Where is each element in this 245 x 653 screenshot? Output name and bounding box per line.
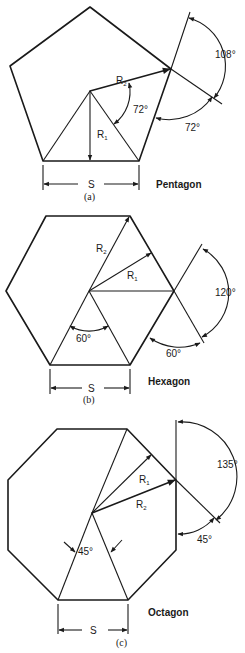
pentagon-interior-angle-label: 108° (215, 49, 236, 60)
octagon-center-angle-arrow-right (111, 540, 122, 552)
pentagon-r1-label: R1 (97, 129, 108, 141)
octagon-r2-label: R2 (136, 499, 147, 511)
hexagon-triangle-right-edge (89, 291, 130, 365)
hexagon-exterior-angle-arc (150, 338, 200, 347)
pentagon-name: Pentagon (156, 179, 202, 190)
octagon-caption: (c) (116, 637, 127, 649)
octagon-exterior-angle-arc (178, 518, 214, 534)
hexagon-center-angle-arc (70, 326, 108, 331)
octagon-center-angle-arrow-left (64, 542, 75, 552)
hexagon-r1-line (89, 253, 151, 291)
hexagon-side-label: S (88, 383, 95, 394)
pentagon-triangle-right-edge (90, 91, 139, 161)
octagon-r2-line (92, 480, 175, 513)
pentagon-caption: (a) (84, 191, 95, 203)
octagon-figure: S R1 R2 45° 135° 45° Octagon (c) (8, 420, 238, 649)
octagon-center-angle-label: 45° (78, 546, 93, 557)
pentagon-figure: S R2 R1 72° 108° 72° Pentagon (a) (10, 7, 236, 203)
hexagon-figure: S R2 R1 60° 120° 60° Hexagon (b) (6, 216, 236, 406)
octagon-triangle-right-edge (92, 513, 128, 600)
octagon-extension-line-edge (176, 480, 220, 523)
octagon-r1-label: R1 (139, 474, 150, 486)
octagon-interior-angle-label: 135° (217, 459, 238, 470)
pentagon-extension-line-edge (171, 69, 222, 104)
pentagon-side-label: S (88, 179, 95, 190)
octagon-name: Octagon (148, 607, 189, 618)
hexagon-triangle-left-edge (50, 291, 89, 365)
pentagon-r2-label: R2 (116, 75, 127, 87)
pentagon-center-angle-label: 72° (133, 104, 148, 115)
pentagon-extension-line-up (171, 12, 190, 69)
octagon-interior-angle-arc (178, 422, 237, 520)
pentagon-exterior-angle-label: 72° (185, 122, 200, 133)
hexagon-center-angle-label: 60° (76, 333, 91, 344)
hexagon-exterior-angle-label: 60° (166, 348, 181, 359)
octagon-exterior-angle-label: 45° (197, 534, 212, 545)
hexagon-caption: (b) (83, 394, 95, 406)
hexagon-extension-line-up (174, 244, 202, 291)
hexagon-extension-line-edge (174, 291, 204, 343)
hexagon-interior-angle-label: 120° (215, 287, 236, 298)
octagon-side-label: S (90, 625, 97, 636)
pentagon-center-angle-arc (114, 83, 130, 124)
pentagon-triangle-left-edge (43, 91, 90, 161)
hexagon-r2-label: R2 (96, 243, 107, 255)
polygon-geometry-diagram: S R2 R1 72° 108° 72° Pentagon (a) S R2 (0, 0, 245, 653)
hexagon-r2-line (89, 217, 129, 291)
hexagon-name: Hexagon (148, 376, 190, 387)
hexagon-r1-label: R1 (127, 270, 138, 282)
pentagon-exterior-angle-arc (156, 97, 212, 120)
